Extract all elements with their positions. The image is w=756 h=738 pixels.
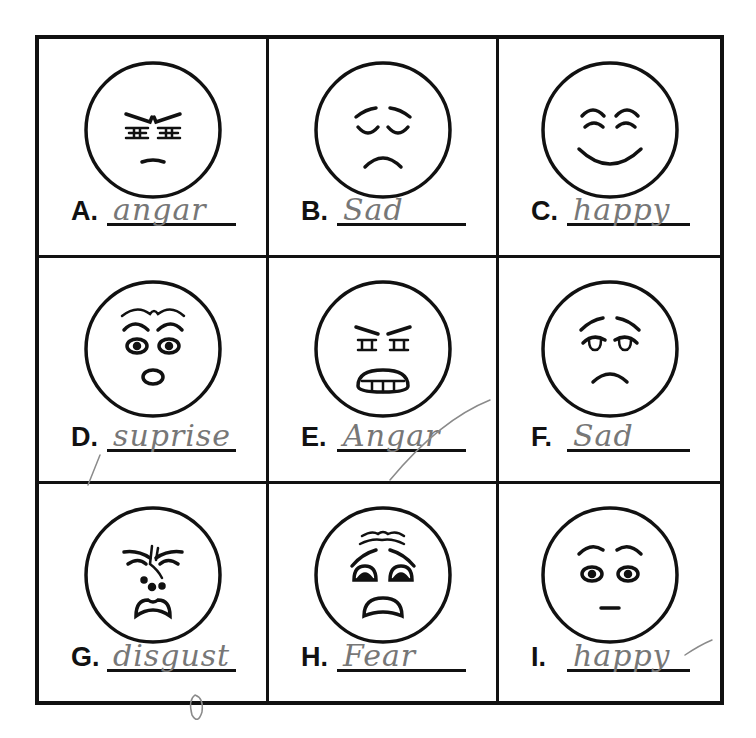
handwritten-answer: Fear [343, 638, 416, 673]
answer-row: I. happy [531, 637, 690, 677]
answer-row: E. Angar [301, 417, 466, 457]
fearful-face-icon [312, 504, 454, 646]
item-letter: E. [301, 422, 327, 453]
sad-closed-eyes-face-icon [312, 59, 454, 201]
handwritten-answer: angar [113, 192, 207, 227]
handwritten-answer: disgust [113, 638, 230, 673]
item-letter: D. [71, 422, 98, 453]
item-letter: I. [531, 642, 546, 673]
item-letter: A. [71, 196, 98, 227]
answer-row: F. Sad [531, 417, 690, 457]
item-letter: G. [71, 642, 100, 673]
grid-cell-d: D. suprise [39, 258, 269, 484]
neutral-wide-eyes-face-icon [539, 504, 681, 646]
item-letter: C. [531, 196, 558, 227]
answer-row: D. suprise [71, 417, 236, 457]
answer-row: C. happy [531, 191, 690, 231]
angry-face-icon [82, 59, 224, 201]
answer-row: A. angar [71, 191, 236, 231]
disgusted-face-icon [82, 504, 224, 646]
handwritten-answer: Sad [343, 192, 404, 227]
item-letter: B. [301, 196, 328, 227]
angry-teeth-face-icon [312, 278, 454, 420]
handwritten-answer: Angar [343, 418, 440, 453]
emotion-faces-grid: A. angar B. Sad [35, 35, 724, 705]
item-letter: F. [531, 422, 552, 453]
grid-cell-e: E. Angar [269, 258, 499, 484]
grid-cell-b: B. Sad [269, 39, 499, 258]
grid-cell-a: A. angar [39, 39, 269, 258]
answer-row: B. Sad [301, 191, 466, 231]
surprised-face-icon [82, 278, 224, 420]
grid-cell-i: I. happy [499, 484, 720, 701]
grid-cell-g: G. disgust [39, 484, 269, 701]
answer-row: H. Fear [301, 637, 466, 677]
handwritten-answer: happy [573, 192, 671, 227]
item-letter: H. [301, 642, 328, 673]
happy-face-icon [539, 59, 681, 201]
handwritten-answer: Sad [573, 418, 634, 453]
sad-face-icon [539, 278, 681, 420]
answer-row: G. disgust [71, 637, 236, 677]
handwritten-answer: happy [573, 638, 671, 673]
grid-cell-h: H. Fear [269, 484, 499, 701]
handwritten-answer: suprise [113, 418, 231, 453]
grid-cell-f: F. Sad [499, 258, 720, 484]
grid-cell-c: C. happy [499, 39, 720, 258]
